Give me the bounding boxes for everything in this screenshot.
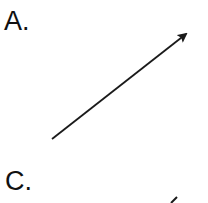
vector-diagram: A. C. [0,0,208,203]
panel-c-label: C. [5,168,32,195]
arrow-a-shaft [52,34,186,139]
arrow-c-partial [171,197,177,203]
